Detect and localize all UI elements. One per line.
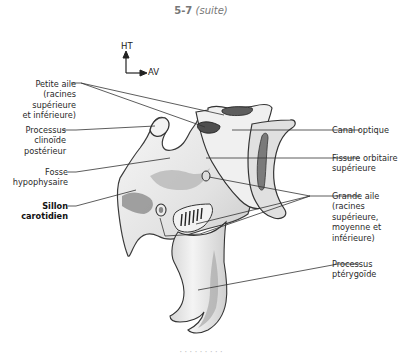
- label-line: ptérygoïde: [332, 269, 376, 279]
- label-line: postérieur: [24, 146, 66, 156]
- label-line: hypophysaire: [13, 177, 68, 187]
- sphenoid-bone: [117, 105, 295, 333]
- label-line: clinoïde: [24, 135, 66, 145]
- label-line: supérieure: [22, 100, 76, 110]
- label-processus-pterygoide: Processus ptérygoïde: [332, 259, 376, 280]
- label-line: (racines: [332, 201, 381, 211]
- forward-arrow-head: [140, 70, 147, 76]
- label-line: supérieure,: [332, 212, 381, 222]
- figure-caption-cut: · · · · · · · · ·: [0, 346, 402, 355]
- label-line: inférieure): [332, 233, 381, 243]
- label-fissure-orbitaire: Fissure orbitaire supérieure: [332, 153, 398, 174]
- label-petite-aile: Petite aile (racines supérieure et infér…: [22, 79, 76, 121]
- label-grande-aile: Grande aile (racines supérieure, moyenne…: [332, 191, 381, 243]
- label-line: Canal optique: [332, 125, 389, 135]
- pterygoid-process: [170, 222, 227, 333]
- label-line: carotidien: [21, 211, 68, 221]
- label-line: Petite aile: [22, 79, 76, 89]
- label-line: Processus: [24, 125, 66, 135]
- lesser-wing-root-upper: [222, 107, 253, 116]
- foramen-rotundum: [202, 171, 210, 181]
- label-line: Processus: [332, 259, 376, 269]
- label-processus-clinoide: Processus clinoïde postérieur: [24, 125, 66, 156]
- foramen-spinosum-hole: [159, 207, 163, 213]
- label-line: Fissure orbitaire: [332, 153, 398, 163]
- leader-processus-clinoide: [62, 126, 155, 130]
- label-fosse-hypophysaire: Fosse hypophysaire: [13, 167, 68, 188]
- posterior-clinoid-process: [150, 118, 169, 137]
- label-sillon-carotidien: Sillon carotidien: [21, 201, 68, 222]
- label-line: et inférieure): [22, 110, 76, 120]
- up-arrow-head: [123, 51, 129, 58]
- leader-petite-aile-2: [81, 83, 205, 127]
- label-line: (racines: [22, 89, 76, 99]
- label-line: Sillon: [21, 201, 68, 211]
- label-line: Grande aile: [332, 191, 381, 201]
- orientation-arrows: [123, 51, 147, 76]
- label-line: moyenne et: [332, 222, 381, 232]
- label-line: Fosse: [13, 167, 68, 177]
- label-line: supérieure: [332, 163, 398, 173]
- label-canal-optique: Canal optique: [332, 125, 389, 135]
